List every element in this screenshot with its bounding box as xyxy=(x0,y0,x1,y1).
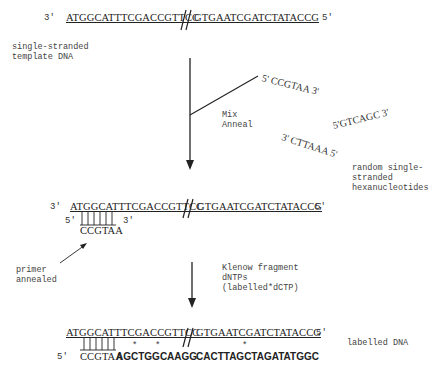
label-asterisk: * xyxy=(132,341,137,351)
annealed-seq-left: ATGGCATTTCGACCGTTCC xyxy=(70,201,203,212)
five-prime-end: 5' xyxy=(322,13,333,23)
extension-seq-2: CACTTAGCTAGATATGGC xyxy=(196,351,319,362)
template-seq-left: ATGGCATTTCGACCGTTCC xyxy=(66,12,199,23)
annealed-seq-right: GTGAATCGATCTATACCG xyxy=(197,201,322,212)
three-prime-end: 3' xyxy=(44,13,55,23)
mix-anneal-label: Mix Anneal xyxy=(222,110,253,130)
primer-seq: CCGTAA xyxy=(80,225,123,236)
label-asterisk: * xyxy=(155,341,160,351)
labelled-dna-label: labelled DNA xyxy=(347,338,408,348)
labelled-seq-left: ATGGCATTTCGACCGTTCC xyxy=(66,327,199,338)
klenow-label: Klenow fragment dNTPs (labelled*dCTP) xyxy=(222,263,299,293)
primer-five-prime: 5' xyxy=(65,216,76,226)
template-label: single-stranded template DNA xyxy=(12,42,89,62)
hexamers-label: random single- stranded hexanucleotides xyxy=(352,163,429,193)
five-prime-end: 5' xyxy=(316,328,327,338)
new-strand-five-prime: 5' xyxy=(57,352,68,362)
label-asterisk: * xyxy=(242,341,247,351)
primer-three-prime: 3' xyxy=(123,216,134,226)
template-seq-right: GTGAATCGATCTATACCG xyxy=(194,12,319,23)
five-prime-end: 5' xyxy=(315,202,326,212)
extension-seq-1: AGCTGGCAAGG xyxy=(116,351,197,362)
three-prime-end: 3' xyxy=(50,202,61,212)
labelled-seq-right: GTGAATCGATCTATACCG xyxy=(196,327,321,338)
primer-annealed-label: primer annealed xyxy=(16,265,57,285)
